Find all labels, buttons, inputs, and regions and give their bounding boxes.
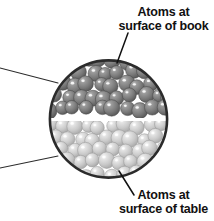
atom-highlight [110, 122, 113, 124]
atom [79, 100, 93, 114]
atom-highlight [136, 147, 139, 149]
atom-highlight [82, 104, 85, 106]
atom [78, 76, 94, 92]
atom-highlight [136, 106, 139, 109]
atom-highlight [156, 92, 159, 94]
atom-highlight [145, 144, 148, 146]
atom-highlight [151, 132, 154, 134]
atom-highlight [125, 91, 128, 93]
atom-highlight [142, 90, 145, 93]
atom-highlight [93, 170, 96, 172]
atom-highlight [79, 136, 82, 138]
atom-highlight [70, 122, 73, 125]
atom-highlight [120, 170, 123, 173]
atom-highlight [141, 137, 144, 139]
atom [103, 100, 119, 116]
atom-highlight [85, 122, 88, 124]
callout-label-table-line1: Atoms at [113, 189, 214, 203]
atom-highlight [102, 71, 105, 73]
atom-highlight [77, 158, 80, 160]
atom [85, 153, 99, 167]
atom-highlight [99, 95, 102, 98]
atom [122, 88, 136, 102]
callout-label-table: Atoms at surface of table [113, 189, 214, 216]
atom-highlight [147, 80, 150, 82]
atom-highlight [141, 157, 145, 160]
atom-highlight [89, 94, 92, 97]
atom-highlight [123, 79, 126, 82]
atom-highlight [115, 159, 118, 161]
callout-label-table-line2: surface of table [113, 203, 214, 217]
atom-highlight [81, 146, 84, 149]
atom-highlight [68, 104, 71, 106]
atom-highlight [106, 82, 109, 84]
atom-highlight [93, 124, 96, 126]
atom-highlight [124, 105, 127, 107]
atom-highlight [133, 124, 136, 126]
atom-highlight [107, 104, 110, 107]
atom-highlight [98, 81, 101, 83]
atom-highlight [59, 104, 62, 106]
atom [65, 100, 79, 114]
atom-highlight [102, 156, 105, 159]
atom-highlight [148, 103, 151, 105]
atom-highlight [126, 135, 130, 138]
atom-highlight [113, 69, 116, 71]
atom-highlight [88, 137, 91, 139]
atom-highlight [109, 145, 112, 147]
atom-highlight [133, 83, 136, 85]
atom-highlight [89, 156, 92, 158]
atom-highlight [122, 147, 125, 149]
atom-highlight [103, 133, 106, 135]
callout-label-book: Atoms at surface of book [113, 6, 214, 33]
atom-highlight [71, 147, 74, 149]
atom-highlight [108, 173, 111, 175]
atom-highlight [115, 134, 118, 137]
atom-highlight [71, 82, 74, 85]
atom-highlight [127, 158, 130, 160]
atom-highlight [66, 94, 69, 96]
atom-highlight [59, 122, 62, 124]
atom-highlight [81, 79, 84, 82]
atom-highlight [113, 94, 116, 96]
atom-highlight [92, 69, 95, 72]
callout-label-book-line1: Atoms at [113, 6, 214, 20]
atom-highlight [64, 135, 67, 137]
callout-label-book-line2: surface of book [113, 20, 214, 34]
atom-highlight [99, 103, 102, 105]
atom-highlight [96, 145, 99, 147]
atom-highlight [77, 93, 80, 96]
